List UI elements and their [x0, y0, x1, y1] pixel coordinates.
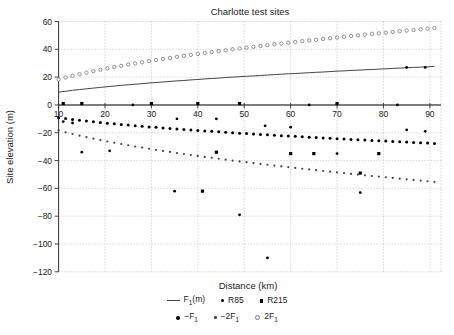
tick-marks	[55, 22, 430, 272]
line-marker-icon	[167, 300, 180, 301]
y-tick-label: 40	[43, 44, 53, 54]
chart: 1020304050607080906040200−20−40−60−80−10…	[0, 0, 454, 335]
x-axis-label: Distance (km)	[219, 280, 278, 291]
legend-item-neg-2f1: −2F1	[214, 310, 239, 326]
y-tick-label: −20	[38, 128, 53, 138]
y-tick-label: 20	[43, 72, 53, 82]
x-tick-labels: 102030405060708090	[54, 109, 435, 119]
x-tick-label: 90	[425, 109, 435, 119]
x-tick-label: 60	[286, 109, 296, 119]
x-tick-label: 20	[100, 109, 110, 119]
x-tick-label: 80	[379, 109, 389, 119]
legend-row: F1(m)R85R215	[167, 293, 288, 309]
legend: F1(m)R85R215−F1−2F12F1	[0, 293, 454, 325]
legend-item-label: −2F1	[221, 310, 240, 326]
y-tick-label: −100	[33, 239, 52, 249]
legend-item-label: R215	[267, 294, 287, 307]
y-tick-label: 60	[43, 17, 53, 27]
x-tick-label: 70	[332, 109, 342, 119]
y-axis-label: Site elevation (m)	[4, 110, 15, 184]
legend-item-label: F1(m)	[184, 293, 206, 309]
series--f1	[57, 116, 436, 145]
legend-item-neg-f1: −F1	[176, 310, 198, 326]
dot-med-marker-icon	[176, 316, 180, 320]
legend-item-r85: R85	[221, 294, 244, 307]
circle-open-marker-icon	[255, 315, 260, 320]
legend-item-label: 2F1	[264, 310, 278, 326]
legend-row: −F1−2F12F1	[176, 310, 278, 326]
y-tick-label: 0	[47, 100, 52, 110]
legend-item-r215: R215	[260, 294, 288, 307]
chart-title: Charlotte test sites	[211, 6, 290, 17]
square-marker-icon	[260, 299, 264, 303]
y-tick-labels: 6040200−20−40−60−80−100−120	[33, 17, 52, 277]
legend-item-label: R85	[228, 294, 244, 307]
dot-small-marker-icon	[214, 316, 217, 319]
y-tick-label: −80	[38, 211, 53, 221]
dot-marker-icon	[221, 299, 224, 302]
x-tick-label: 30	[147, 109, 157, 119]
y-tick-label: −40	[38, 156, 53, 166]
y-tick-label: −60	[38, 183, 53, 193]
series-f1-m-	[59, 66, 435, 92]
plot-area: 1020304050607080906040200−20−40−60−80−10…	[33, 17, 441, 277]
axes	[59, 22, 441, 272]
series-2f1	[57, 26, 436, 81]
legend-item-f1m: F1(m)	[167, 293, 206, 309]
legend-item-label: −F1	[184, 310, 198, 326]
gridlines	[59, 22, 441, 272]
plot-svg: 1020304050607080906040200−20−40−60−80−10…	[0, 0, 454, 335]
legend-item-2f1: 2F1	[255, 310, 278, 326]
x-tick-label: 50	[239, 109, 249, 119]
x-tick-label: 10	[54, 109, 64, 119]
series--2f1	[58, 129, 436, 183]
y-tick-label: −120	[33, 267, 52, 277]
x-tick-label: 40	[193, 109, 203, 119]
